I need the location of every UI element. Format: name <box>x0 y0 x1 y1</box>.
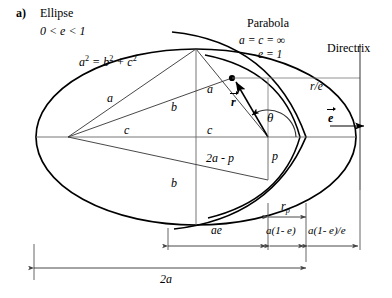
dim-a-one-minus-e-over-e-label: a(1- e)/e <box>308 225 346 236</box>
relation-exp-3: 2 <box>133 54 137 63</box>
p-label: p <box>272 150 278 162</box>
semi-minor-top-label: b <box>171 101 177 113</box>
parabola-inner-curve <box>205 55 300 218</box>
conic-sections-figure: a) Ellipse 0 < e < 1 a2 = b2 + c2 Parabo… <box>0 0 392 298</box>
rp-subscript: p <box>286 206 290 215</box>
eccentricity-vector-symbol: e <box>328 112 333 124</box>
eccentricity-condition: 0 < e < 1 <box>40 25 86 37</box>
radius-vector-arrow <box>236 82 268 137</box>
semi-minor-bottom-label: b <box>171 177 177 189</box>
dim-2a-label: 2a <box>160 273 172 285</box>
pythagorean-relation: a2 = b2 + c2 <box>79 55 137 68</box>
relation-eq-b: = b <box>92 55 109 69</box>
two-a-minus-p-line <box>68 137 268 180</box>
semi-major-left-label: a <box>107 92 113 104</box>
semi-major-right-label: a <box>207 83 213 95</box>
r-over-e-label: r/e <box>310 81 323 93</box>
directrix-label: Directrix <box>327 42 370 54</box>
parabola-title: Parabola <box>247 17 289 29</box>
radius-vector-symbol: r <box>231 96 236 108</box>
relation-plus-c: + c <box>116 55 132 69</box>
focal-right-label: c <box>207 124 212 136</box>
focal-left-label: c <box>124 124 129 136</box>
eccentricity-vector-label: e <box>328 112 333 124</box>
dim-rp-label: rp <box>281 200 290 216</box>
theta-arc <box>252 110 296 137</box>
parabola-params: a = c = ∞ <box>239 35 285 47</box>
conic-title: Ellipse <box>40 7 73 19</box>
parabola-eccentricity: e = 1 <box>258 49 282 61</box>
theta-label: θ <box>267 111 273 124</box>
relation-exp-2: 2 <box>109 54 113 63</box>
radius-vector-label: r <box>231 96 236 108</box>
panel-label: a) <box>16 7 26 19</box>
dim-ae-label: ae <box>211 225 222 237</box>
dim-a-one-minus-e-label: a(1- e) <box>266 225 296 236</box>
two-a-minus-p-label: 2a - p <box>206 152 234 164</box>
relation-exp-1: 2 <box>85 54 89 63</box>
